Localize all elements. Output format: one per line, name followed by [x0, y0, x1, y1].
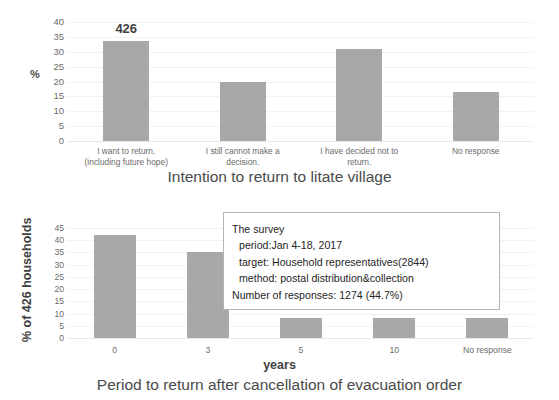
x-tick-label: 0 [68, 345, 161, 356]
chart-title-period: Period to return after cancellation of e… [0, 376, 559, 394]
x-tick-label-line: 10 [348, 345, 441, 356]
y-tick-label: 35 [42, 32, 64, 42]
chart-intention-to-return: % 4035302520151050 426 I want to return.… [0, 0, 559, 196]
bar [466, 318, 508, 338]
y-tick-label: 0 [44, 334, 64, 343]
x-tick-label: 10 [348, 345, 441, 356]
y-tick-label: 10 [42, 107, 64, 117]
bar [103, 41, 149, 141]
chart-period-to-return: % of 426 households 454035302520151050 0… [0, 200, 559, 400]
y-axis-label-percent: % [30, 68, 40, 80]
y-tick-label: 30 [42, 47, 64, 57]
y-tick-label: 30 [44, 260, 64, 269]
gridline [68, 314, 534, 315]
y-tick-label: 40 [42, 17, 64, 27]
survey-period: period:Jan 4-18, 2017 [232, 237, 493, 253]
x-tick-label-line: return. [301, 157, 418, 168]
gridline [68, 37, 534, 38]
y-tick-label: 10 [44, 309, 64, 318]
y-tick-label: 25 [42, 62, 64, 72]
bar [220, 82, 266, 142]
x-tick-label-line: (including future hope) [68, 157, 185, 168]
y-tick-label: 25 [44, 273, 64, 282]
gridline [68, 141, 534, 142]
x-tick-label: I want to return.(including future hope) [68, 146, 185, 167]
bar [336, 49, 382, 141]
survey-heading: The survey [232, 221, 493, 237]
survey-target: target: Household representatives(2844) [232, 254, 493, 270]
y-tick-label: 0 [42, 136, 64, 146]
x-tick-label-line: I want to return. [68, 146, 185, 157]
x-axis-title-years: years [0, 358, 559, 372]
y-tick-label: 20 [44, 285, 64, 294]
x-tick-label: 3 [161, 345, 254, 356]
x-tick-label: No response [418, 146, 535, 157]
y-axis-label-households: % of 426 households [20, 232, 34, 342]
y-tick-label: 15 [42, 92, 64, 102]
bar-value-annotation: 426 [86, 21, 166, 36]
survey-responses: Number of responses: 1274 (44.7%) [232, 287, 493, 303]
bar [94, 235, 136, 338]
y-tick-label: 35 [44, 248, 64, 257]
bar [453, 92, 499, 141]
y-tick-label: 15 [44, 297, 64, 306]
y-tick-label: 5 [44, 321, 64, 330]
x-tick-label-line: I have decided not to [301, 146, 418, 157]
survey-info-box: The survey period:Jan 4-18, 2017 target:… [223, 212, 500, 310]
chart-title-intention: Intention to return to litate village [0, 168, 559, 186]
x-tick-label-line: decision. [185, 157, 302, 168]
y-tick-label: 40 [44, 236, 64, 245]
x-tick-label-line: No response [441, 345, 534, 356]
bar [280, 318, 322, 338]
x-tick-label: I have decided not toreturn. [301, 146, 418, 167]
gridline [68, 338, 534, 339]
y-tick-label: 45 [44, 224, 64, 233]
y-tick-label: 20 [42, 77, 64, 87]
x-tick-label-line: 0 [68, 345, 161, 356]
survey-method: method: postal distribution&collection [232, 270, 493, 286]
y-tick-label: 5 [42, 121, 64, 131]
x-tick-label: No response [441, 345, 534, 356]
x-tick-label-line: I still cannot make a [185, 146, 302, 157]
x-tick-label: I still cannot make adecision. [185, 146, 302, 167]
x-tick-label: 5 [254, 345, 347, 356]
x-tick-label-line: 3 [161, 345, 254, 356]
x-tick-label-line: 5 [254, 345, 347, 356]
x-tick-label-line: No response [418, 146, 535, 157]
bar [373, 318, 415, 338]
